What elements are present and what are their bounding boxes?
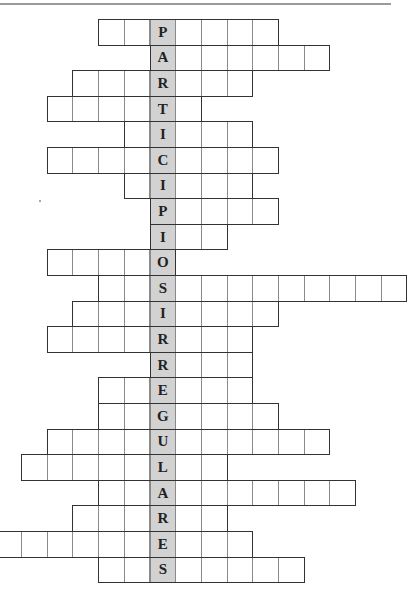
answer-cell[interactable] (72, 531, 99, 558)
answer-cell[interactable] (201, 557, 228, 584)
answer-cell[interactable] (124, 70, 151, 97)
answer-cell[interactable] (304, 45, 331, 72)
answer-cell[interactable] (98, 454, 125, 481)
answer-cell[interactable] (72, 505, 99, 532)
answer-cell[interactable] (175, 45, 202, 72)
answer-cell[interactable] (381, 275, 407, 302)
answer-cell[interactable] (175, 326, 202, 353)
answer-cell[interactable] (124, 301, 151, 328)
answer-cell[interactable] (175, 531, 202, 558)
answer-cell[interactable] (124, 454, 151, 481)
answer-cell[interactable] (175, 352, 202, 379)
answer-cell[interactable] (124, 531, 151, 558)
answer-cell[interactable] (124, 403, 151, 430)
answer-cell[interactable] (201, 275, 228, 302)
answer-cell[interactable] (175, 480, 202, 507)
answer-cell[interactable] (201, 224, 228, 251)
answer-cell[interactable] (252, 147, 279, 174)
answer-cell[interactable] (175, 224, 202, 251)
answer-cell[interactable] (47, 454, 74, 481)
answer-cell[interactable] (252, 403, 279, 430)
answer-cell[interactable] (201, 377, 228, 404)
answer-cell[interactable] (175, 454, 202, 481)
answer-cell[interactable] (124, 96, 151, 123)
answer-cell[interactable] (21, 454, 48, 481)
answer-cell[interactable] (175, 429, 202, 456)
answer-cell[interactable] (201, 403, 228, 430)
answer-cell[interactable] (98, 480, 125, 507)
answer-cell[interactable] (227, 121, 254, 148)
answer-cell[interactable] (175, 377, 202, 404)
answer-cell[interactable] (124, 557, 151, 584)
answer-cell[interactable] (72, 96, 99, 123)
answer-cell[interactable] (98, 96, 125, 123)
answer-cell[interactable] (47, 326, 74, 353)
answer-cell[interactable] (0, 531, 22, 558)
answer-cell[interactable] (124, 173, 151, 200)
answer-cell[interactable] (175, 301, 202, 328)
answer-cell[interactable] (201, 480, 228, 507)
answer-cell[interactable] (227, 301, 254, 328)
answer-cell[interactable] (72, 70, 99, 97)
answer-cell[interactable] (252, 301, 279, 328)
answer-cell[interactable] (252, 45, 279, 72)
answer-cell[interactable] (72, 454, 99, 481)
answer-cell[interactable] (175, 19, 202, 46)
answer-cell[interactable] (227, 198, 254, 225)
answer-cell[interactable] (124, 505, 151, 532)
answer-cell[interactable] (201, 326, 228, 353)
answer-cell[interactable] (72, 249, 99, 276)
answer-cell[interactable] (201, 429, 228, 456)
answer-cell[interactable] (201, 505, 228, 532)
answer-cell[interactable] (227, 403, 254, 430)
answer-cell[interactable] (124, 121, 151, 148)
answer-cell[interactable] (21, 531, 48, 558)
answer-cell[interactable] (227, 147, 254, 174)
answer-cell[interactable] (175, 70, 202, 97)
answer-cell[interactable] (252, 198, 279, 225)
answer-cell[interactable] (227, 70, 254, 97)
answer-cell[interactable] (201, 301, 228, 328)
answer-cell[interactable] (98, 377, 125, 404)
answer-cell[interactable] (175, 121, 202, 148)
answer-cell[interactable] (98, 557, 125, 584)
answer-cell[interactable] (252, 19, 279, 46)
answer-cell[interactable] (124, 429, 151, 456)
answer-cell[interactable] (175, 147, 202, 174)
answer-cell[interactable] (72, 147, 99, 174)
answer-cell[interactable] (98, 147, 125, 174)
answer-cell[interactable] (329, 275, 356, 302)
answer-cell[interactable] (252, 480, 279, 507)
answer-cell[interactable] (124, 19, 151, 46)
answer-cell[interactable] (278, 45, 305, 72)
answer-cell[interactable] (201, 173, 228, 200)
answer-cell[interactable] (227, 429, 254, 456)
answer-cell[interactable] (201, 454, 228, 481)
answer-cell[interactable] (175, 505, 202, 532)
answer-cell[interactable] (227, 326, 254, 353)
answer-cell[interactable] (98, 326, 125, 353)
answer-cell[interactable] (98, 70, 125, 97)
answer-cell[interactable] (72, 301, 99, 328)
answer-cell[interactable] (47, 147, 74, 174)
answer-cell[interactable] (355, 275, 382, 302)
answer-cell[interactable] (47, 429, 74, 456)
answer-cell[interactable] (47, 249, 74, 276)
answer-cell[interactable] (201, 198, 228, 225)
answer-cell[interactable] (252, 429, 279, 456)
answer-cell[interactable] (175, 198, 202, 225)
answer-cell[interactable] (227, 557, 254, 584)
answer-cell[interactable] (278, 557, 305, 584)
answer-cell[interactable] (278, 480, 305, 507)
answer-cell[interactable] (175, 557, 202, 584)
answer-cell[interactable] (98, 429, 125, 456)
answer-cell[interactable] (201, 147, 228, 174)
answer-cell[interactable] (98, 403, 125, 430)
answer-cell[interactable] (175, 96, 202, 123)
answer-cell[interactable] (175, 275, 202, 302)
answer-cell[interactable] (278, 275, 305, 302)
answer-cell[interactable] (227, 480, 254, 507)
answer-cell[interactable] (227, 19, 254, 46)
answer-cell[interactable] (72, 429, 99, 456)
answer-cell[interactable] (47, 96, 74, 123)
